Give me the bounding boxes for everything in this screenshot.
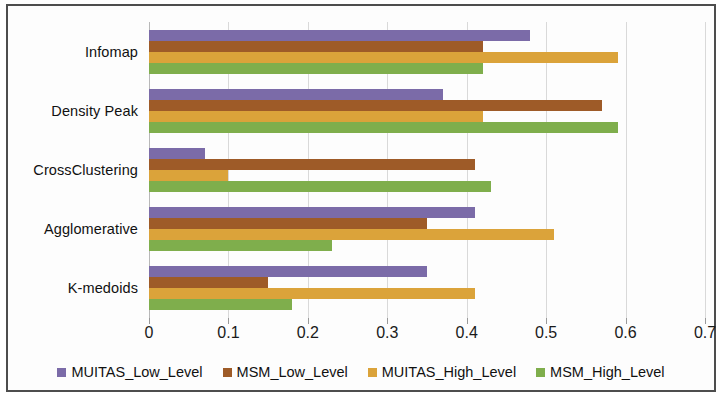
category-axis-label: Infomap <box>85 44 138 60</box>
bar-group <box>149 266 705 310</box>
category-axis-label: Density Peak <box>51 103 138 119</box>
bar <box>149 89 443 100</box>
x-tick-label: 0.2 <box>297 324 319 342</box>
legend-label: MUITAS_Low_Level <box>71 364 202 380</box>
legend-swatch-icon <box>368 368 377 377</box>
legend-item[interactable]: MUITAS_Low_Level <box>57 364 202 380</box>
bar <box>149 41 483 52</box>
chart-frame: InfomapDensity PeakCrossClusteringAgglom… <box>6 4 716 392</box>
legend-label: MUITAS_High_Level <box>382 364 516 380</box>
bar <box>149 299 292 310</box>
x-tick-label: 0 <box>145 324 154 342</box>
legend-swatch-icon <box>536 368 545 377</box>
bar <box>149 100 602 111</box>
category-axis-label: K-medoids <box>68 280 138 296</box>
bar <box>149 207 475 218</box>
bar <box>149 159 475 170</box>
category-axis-label: Agglomerative <box>44 221 138 237</box>
legend-swatch-icon <box>223 368 232 377</box>
x-tick-label: 0.5 <box>535 324 557 342</box>
category-axis: InfomapDensity PeakCrossClusteringAgglom… <box>16 22 144 318</box>
gridline <box>705 22 706 318</box>
plot-area <box>149 22 705 318</box>
bar <box>149 240 332 251</box>
x-tick-label: 0.6 <box>614 324 636 342</box>
legend-label: MSM_Low_Level <box>237 364 348 380</box>
bar <box>149 181 491 192</box>
bar <box>149 148 205 159</box>
bar-group <box>149 148 705 192</box>
bar <box>149 266 427 277</box>
bar-group <box>149 89 705 133</box>
legend-item[interactable]: MUITAS_High_Level <box>368 364 516 380</box>
bar <box>149 122 618 133</box>
legend-item[interactable]: MSM_High_Level <box>536 364 664 380</box>
bar <box>149 52 618 63</box>
bar <box>149 30 530 41</box>
legend-item[interactable]: MSM_Low_Level <box>223 364 348 380</box>
x-tick-label: 0.4 <box>456 324 478 342</box>
legend-label: MSM_High_Level <box>550 364 664 380</box>
bar <box>149 288 475 299</box>
x-tick-label: 0.7 <box>694 324 716 342</box>
bar <box>149 218 427 229</box>
bar <box>149 63 483 74</box>
chart-legend: MUITAS_Low_LevelMSM_Low_LevelMUITAS_High… <box>8 364 714 380</box>
bar-group <box>149 207 705 251</box>
bar <box>149 170 228 181</box>
bar <box>149 277 268 288</box>
x-tick-label: 0.1 <box>217 324 239 342</box>
bar <box>149 229 554 240</box>
bar-group <box>149 30 705 74</box>
bar <box>149 111 483 122</box>
category-axis-label: CrossClustering <box>33 162 138 178</box>
x-tick-label: 0.3 <box>376 324 398 342</box>
legend-swatch-icon <box>57 368 66 377</box>
x-axis-tick-labels: 00.10.20.30.40.50.60.7 <box>149 324 705 348</box>
